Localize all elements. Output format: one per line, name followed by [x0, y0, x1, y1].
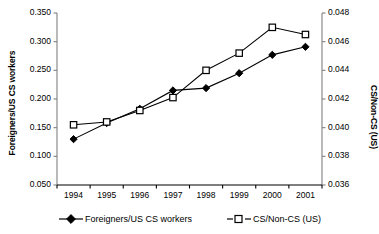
open-square-icon	[226, 213, 252, 225]
data-point-marker	[236, 70, 243, 77]
data-point-marker	[70, 122, 76, 128]
data-point-marker	[103, 119, 109, 125]
legend-label-foreigners: Foreigners/US CS workers	[85, 214, 192, 224]
legend-label-cs-noncs: CS/Non-CS (US)	[253, 214, 321, 224]
data-point-marker	[202, 85, 209, 92]
data-point-marker	[269, 24, 275, 30]
data-point-marker	[269, 51, 276, 58]
data-point-marker	[137, 107, 143, 113]
legend-item-cs-noncs: CS/Non-CS (US)	[226, 213, 321, 225]
legend-item-foreigners: Foreigners/US CS workers	[58, 213, 192, 225]
data-point-marker	[236, 50, 242, 56]
chart-legend: Foreigners/US CS workers CS/Non-CS (US)	[0, 208, 379, 230]
data-point-marker	[169, 87, 176, 94]
data-point-marker	[302, 43, 309, 50]
filled-diamond-icon	[58, 213, 84, 225]
chart-container: Foreigners/US CS workers CS/Non-CS (US) …	[0, 0, 379, 234]
data-point-marker	[70, 136, 77, 143]
data-point-marker	[170, 94, 176, 100]
plot-area	[0, 0, 379, 234]
data-point-marker	[203, 67, 209, 73]
data-point-marker	[302, 31, 308, 37]
